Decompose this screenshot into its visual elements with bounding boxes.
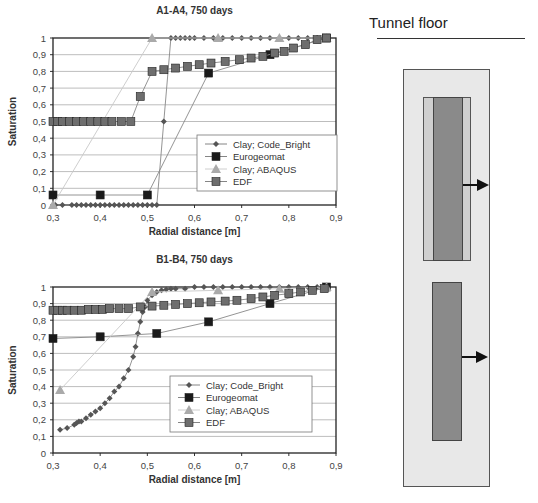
upper-radial-arrow-icon bbox=[463, 184, 479, 186]
x-tick-label: 0,6 bbox=[188, 212, 201, 223]
lower-radial-arrow-icon bbox=[462, 356, 478, 358]
y-tick-label: 0,5 bbox=[33, 365, 46, 376]
y-tick-label: 0,9 bbox=[33, 49, 46, 60]
legend-entry: Eurogeomat bbox=[233, 151, 285, 162]
x-tick-label: 0,7 bbox=[235, 460, 248, 471]
x-tick-label: 0,5 bbox=[141, 212, 154, 223]
y-tick-label: 0,8 bbox=[33, 66, 46, 77]
x-tick-label: 0,7 bbox=[235, 212, 248, 223]
diagram-divider bbox=[377, 38, 525, 39]
chart-a1-a4: A1-A4, 750 days00,10,20,30,40,50,60,70,8… bbox=[7, 5, 343, 237]
y-tick-label: 0,4 bbox=[33, 381, 46, 392]
x-tick-label: 0,3 bbox=[46, 460, 59, 471]
x-tick-label: 0,4 bbox=[94, 212, 107, 223]
series-edf bbox=[49, 285, 328, 315]
x-axis-label: Radial distance [m] bbox=[149, 474, 241, 485]
chart-title: A1-A4, 750 days bbox=[156, 5, 233, 16]
lower-borehole bbox=[432, 282, 462, 441]
chart-b1-b4: B1-B4, 750 days00,10,20,30,40,50,60,70,8… bbox=[7, 254, 343, 485]
legend-entry: Clay; Code_Bright bbox=[206, 380, 283, 391]
y-tick-label: 0,3 bbox=[33, 149, 46, 160]
x-tick-label: 0,9 bbox=[329, 460, 342, 471]
y-tick-label: 0,3 bbox=[33, 398, 46, 409]
y-tick-label: 0,7 bbox=[33, 331, 46, 342]
series-edf bbox=[49, 34, 331, 126]
y-axis-label: Saturation bbox=[7, 97, 18, 146]
y-tick-label: 0,2 bbox=[33, 414, 46, 425]
x-tick-label: 0,3 bbox=[46, 212, 59, 223]
x-axis-label: Radial distance [m] bbox=[149, 226, 241, 237]
upper-borehole bbox=[433, 97, 463, 261]
x-tick-label: 0,8 bbox=[282, 460, 295, 471]
x-tick-label: 0,8 bbox=[282, 212, 295, 223]
x-tick-label: 0,5 bbox=[141, 460, 154, 471]
chart-legend: Clay; Code_BrightEurogeomatClay; ABAQUSE… bbox=[197, 135, 337, 191]
y-tick-label: 0 bbox=[41, 448, 46, 459]
y-tick-label: 0,2 bbox=[33, 166, 46, 177]
y-tick-label: 0,7 bbox=[33, 83, 46, 94]
legend-entry: EDF bbox=[206, 417, 225, 428]
legend-entry: EDF bbox=[233, 176, 252, 187]
x-tick-label: 0,9 bbox=[329, 212, 342, 223]
y-tick-label: 1 bbox=[41, 282, 46, 293]
x-tick-label: 0,6 bbox=[188, 460, 201, 471]
legend-entry: Clay; ABAQUS bbox=[233, 164, 296, 175]
y-tick-label: 0,6 bbox=[33, 99, 46, 110]
legend-entry: Eurogeomat bbox=[206, 392, 258, 403]
y-tick-label: 1 bbox=[41, 33, 46, 44]
x-tick-label: 0,4 bbox=[94, 460, 107, 471]
y-tick-label: 0,6 bbox=[33, 348, 46, 359]
y-tick-label: 0,1 bbox=[33, 431, 46, 442]
y-tick-label: 0,1 bbox=[33, 183, 46, 194]
y-axis-label: Saturation bbox=[7, 345, 18, 394]
tunnel-floor-diagram: Tunnel floor bbox=[360, 0, 538, 503]
diagram-title: Tunnel floor bbox=[369, 14, 448, 31]
charts-canvas: A1-A4, 750 days00,10,20,30,40,50,60,70,8… bbox=[0, 0, 360, 503]
legend-entry: Clay; ABAQUS bbox=[206, 405, 269, 416]
legend-entry: Clay; Code_Bright bbox=[233, 139, 310, 150]
y-tick-label: 0,5 bbox=[33, 116, 46, 127]
y-tick-label: 0 bbox=[41, 200, 46, 211]
chart-legend: Clay; Code_BrightEurogeomatClay; ABAQUSE… bbox=[170, 376, 312, 432]
y-tick-label: 0,9 bbox=[33, 298, 46, 309]
y-tick-label: 0,4 bbox=[33, 133, 46, 144]
chart-title: B1-B4, 750 days bbox=[156, 254, 233, 265]
y-tick-label: 0,8 bbox=[33, 315, 46, 326]
